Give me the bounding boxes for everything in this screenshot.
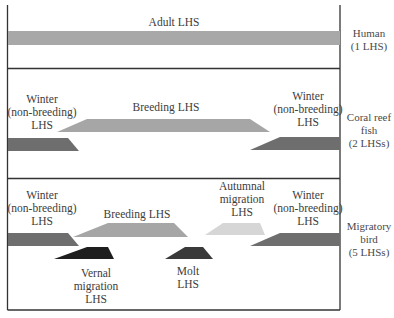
- label-line: (non-breeding): [268, 202, 348, 215]
- fish-breeding-label: Breeding LHS: [116, 101, 216, 114]
- fish-winter-bar-left: [8, 138, 79, 151]
- label-line: LHS: [158, 278, 218, 291]
- label-line: (non-breeding): [268, 103, 348, 116]
- human-count: (1 LHS): [344, 40, 394, 53]
- bird-molt-bar: [165, 247, 213, 259]
- bird-vernal-migration-bar: [54, 247, 114, 259]
- label-line: LHS: [56, 293, 136, 306]
- bird-name-line1: Migratory: [344, 220, 394, 233]
- human-adult-label: Adult LHS: [124, 16, 224, 29]
- label-line: Vernal: [56, 267, 136, 280]
- label-line: Molt: [158, 265, 218, 278]
- fish-organism-label: Coral reef fish (2 LHSs): [344, 111, 394, 150]
- fish-count: (2 LHSs): [344, 137, 394, 150]
- bird-winter-bar-left: [8, 233, 79, 246]
- label-line: Winter: [2, 93, 82, 106]
- human-organism-label: Human (1 LHS): [344, 27, 394, 53]
- bird-name-line2: bird: [344, 233, 394, 246]
- label-line: Winter: [2, 189, 82, 202]
- label-line: Winter: [268, 90, 348, 103]
- fish-winter-left-label: Winter (non-breeding) LHS: [2, 93, 82, 132]
- label-line: LHS: [2, 215, 82, 228]
- fish-winter-right-label: Winter (non-breeding) LHS: [268, 90, 348, 129]
- label-line: LHS: [268, 116, 348, 129]
- label-line: (non-breeding): [2, 106, 82, 119]
- bird-breeding-label: Breeding LHS: [92, 208, 182, 221]
- bird-breeding-bar: [73, 223, 188, 237]
- bird-molt-label: Molt LHS: [158, 265, 218, 291]
- label-line: Winter: [268, 189, 348, 202]
- human-name: Human: [344, 27, 394, 40]
- label-line: LHS: [268, 215, 348, 228]
- label-line: migration: [56, 280, 136, 293]
- label-line: LHS: [2, 119, 82, 132]
- human-adult-bar: [8, 31, 340, 45]
- bird-count: (5 LHSs): [344, 246, 394, 259]
- bird-organism-label: Migratory bird (5 LHSs): [344, 220, 394, 259]
- bird-vernal-label: Vernal migration LHS: [56, 267, 136, 306]
- fish-name-line1: Coral reef: [344, 111, 394, 124]
- bird-winter-right-label: Winter (non-breeding) LHS: [268, 189, 348, 228]
- bird-autumnal-migration-bar: [205, 223, 265, 235]
- fish-name-line2: fish: [344, 124, 394, 137]
- fish-breeding-bar: [57, 119, 270, 132]
- bird-winter-left-label: Winter (non-breeding) LHS: [2, 189, 82, 228]
- fish-winter-bar-right: [250, 137, 340, 150]
- label-line: (non-breeding): [2, 202, 82, 215]
